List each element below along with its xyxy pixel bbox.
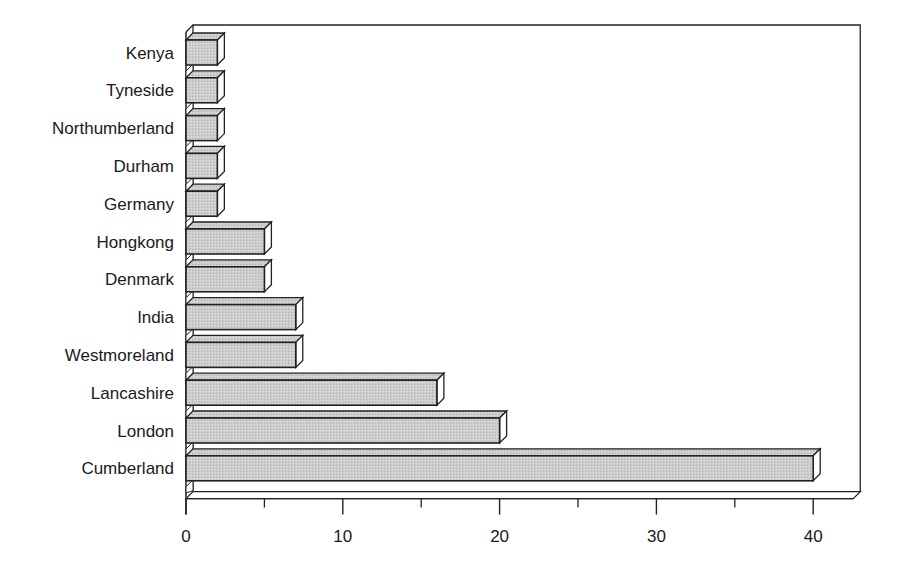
tick-label: 20	[490, 527, 509, 546]
category-labels: KenyaTynesideNorthumberlandDurhamGermany…	[52, 44, 174, 479]
tick-label: 10	[333, 527, 352, 546]
bar-chart: KenyaTynesideNorthumberlandDurhamGermany…	[0, 0, 902, 561]
tick-label: 0	[181, 527, 190, 546]
category-label: Denmark	[105, 270, 174, 289]
category-label: London	[117, 422, 174, 441]
tick-label: 40	[804, 527, 823, 546]
bar	[186, 449, 820, 493]
category-label: Northumberland	[52, 119, 174, 138]
tick-label: 30	[647, 527, 666, 546]
category-label: Durham	[114, 157, 174, 176]
bars	[186, 33, 820, 493]
category-label: Westmoreland	[65, 346, 174, 365]
category-label: Cumberland	[81, 459, 174, 478]
category-label: Kenya	[126, 44, 175, 63]
category-label: Tyneside	[106, 81, 174, 100]
category-label: Hongkong	[96, 233, 174, 252]
category-label: Germany	[104, 195, 174, 214]
category-label: India	[137, 308, 174, 327]
x-axis: 010203040	[181, 499, 853, 546]
category-label: Lancashire	[91, 384, 174, 403]
